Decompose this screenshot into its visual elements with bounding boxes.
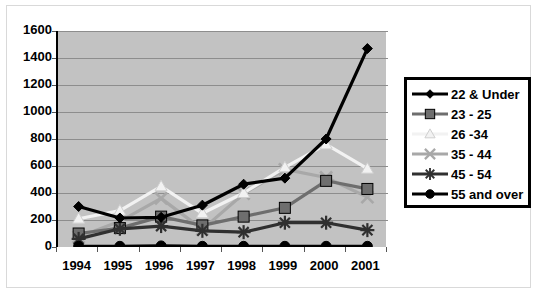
x-axis-tick-label: 2001 [343, 258, 387, 273]
y-axis-tick-label: 0 [4, 240, 52, 252]
legend-key-swatch [410, 146, 450, 162]
legend-marker-icon [410, 106, 450, 122]
legend-marker-icon [410, 186, 450, 202]
chart-title [120, 0, 420, 6]
data-point-marker [360, 223, 374, 237]
data-point-marker [321, 175, 332, 186]
data-point-marker [197, 241, 207, 247]
legend-item-45-54[interactable]: 45 - 54 [407, 164, 528, 184]
data-point-marker [156, 241, 166, 247]
x-axis-tick-label: 1998 [220, 258, 264, 273]
x-axis-tick-label: 1994 [55, 258, 99, 273]
legend-item-55-and-over[interactable]: 55 and over [407, 184, 528, 204]
y-axis-tick-label: 800 [4, 132, 52, 144]
chart-figure: 16001400120010008006004002000 1994199519… [0, 0, 537, 299]
series-line [79, 49, 368, 218]
data-point-marker [74, 241, 84, 247]
data-point-marker [238, 211, 249, 222]
legend-marker-icon [410, 166, 450, 182]
data-point-marker [195, 224, 209, 238]
x-axis-tick-mark [139, 247, 140, 252]
plot-area [56, 31, 386, 247]
data-point-marker [319, 216, 333, 230]
legend-marker-icon [410, 86, 450, 102]
x-axis-tick-mark [221, 247, 222, 252]
y-axis-tick-label: 1400 [4, 51, 52, 63]
x-axis-tick-label: 1995 [96, 258, 140, 273]
y-axis-tick-label: 1000 [4, 105, 52, 117]
data-point-marker [74, 202, 84, 212]
x-axis-tick-label: 1997 [178, 258, 222, 273]
x-axis-tick-label: 1996 [137, 258, 181, 273]
legend-item-22-under[interactable]: 22 & Under [407, 84, 528, 104]
legend-marker-icon [410, 126, 450, 142]
legend-key-swatch [410, 86, 450, 102]
x-axis-tick-mark [386, 247, 387, 252]
legend-item-label: 55 and over [451, 188, 523, 201]
y-axis-tick-label: 1600 [4, 24, 52, 36]
data-point-marker [237, 225, 251, 239]
series-canvas [58, 31, 388, 247]
x-axis-tick-label: 2000 [302, 258, 346, 273]
data-point-marker [113, 222, 127, 236]
x-axis: 19941995199619971998199920002001 [0, 252, 537, 272]
legend-item-label: 35 - 44 [451, 148, 491, 161]
data-point-marker [155, 180, 167, 191]
legend-item-label: 23 - 25 [451, 108, 491, 121]
data-point-marker [115, 241, 125, 247]
series-55-and-over [74, 241, 373, 247]
legend-key-swatch [410, 106, 450, 122]
data-point-marker [155, 192, 167, 204]
data-point-marker [239, 241, 249, 247]
legend-item-label: 22 & Under [451, 88, 520, 101]
x-axis-tick-label: 1999 [261, 258, 305, 273]
data-point-marker [362, 183, 373, 194]
legend-item-23-25[interactable]: 23 - 25 [407, 104, 528, 124]
legend-item-label: 26 -34 [451, 128, 488, 141]
legend-item-26-34[interactable]: 26 -34 [407, 124, 528, 144]
y-axis-tick-label: 400 [4, 186, 52, 198]
x-axis-tick-mark [304, 247, 305, 252]
data-point-marker [321, 241, 331, 247]
data-point-marker [278, 216, 292, 230]
data-point-marker [279, 202, 290, 213]
legend-key-swatch [410, 186, 450, 202]
x-axis-tick-mark [262, 247, 263, 252]
data-point-marker [362, 241, 372, 247]
data-point-marker [280, 241, 290, 247]
legend-key-swatch [410, 166, 450, 182]
data-point-marker [362, 44, 372, 54]
legend-item-label: 45 - 54 [451, 168, 491, 181]
y-axis-tick-label: 1200 [4, 78, 52, 90]
y-axis-tick-label: 600 [4, 159, 52, 171]
legend-key-swatch [410, 126, 450, 142]
data-point-marker [426, 90, 435, 99]
series-22-under [74, 44, 373, 223]
x-axis-tick-mark [345, 247, 346, 252]
legend-item-35-44[interactable]: 35 - 44 [407, 144, 528, 164]
data-point-marker [425, 109, 434, 118]
data-point-marker [424, 168, 436, 180]
x-axis-tick-mark [56, 247, 57, 252]
x-axis-tick-mark [97, 247, 98, 252]
chart-legend: 22 & Under23 - 2526 -3435 - 4445 - 5455 … [404, 77, 531, 208]
legend-marker-icon [410, 146, 450, 162]
x-axis-tick-mark [180, 247, 181, 252]
data-point-marker [426, 190, 435, 199]
y-axis-tick-label: 200 [4, 213, 52, 225]
